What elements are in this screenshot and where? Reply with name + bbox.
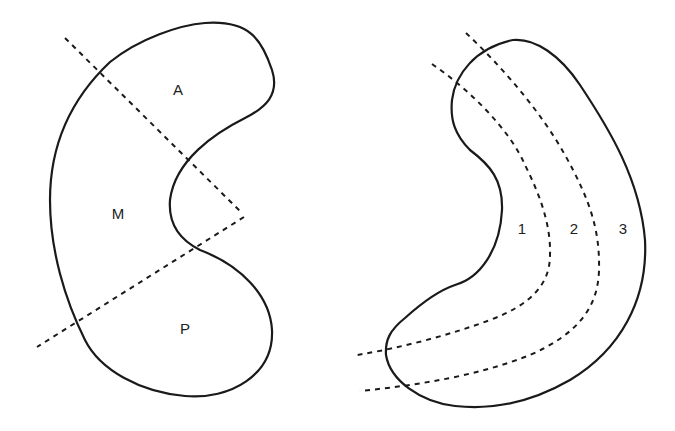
label-m: M <box>112 205 125 222</box>
right-divider-inner <box>357 64 550 355</box>
left-divider-upper <box>65 38 242 213</box>
left-divider-lower <box>37 217 244 347</box>
right-figure: 1 2 3 <box>357 33 645 407</box>
right-curved-outline <box>386 40 645 407</box>
label-band-1: 1 <box>518 220 526 237</box>
label-a: A <box>173 81 183 98</box>
label-band-2: 2 <box>570 220 578 237</box>
diagram-canvas: A M P 1 2 3 <box>0 0 675 431</box>
label-p: P <box>180 320 190 337</box>
label-band-3: 3 <box>619 220 627 237</box>
left-figure: A M P <box>37 23 274 397</box>
right-divider-outer <box>360 33 599 391</box>
left-kidney-outline <box>50 23 274 397</box>
